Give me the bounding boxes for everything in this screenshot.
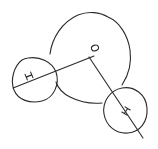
hydrogen-right-atom-circle: [104, 88, 147, 133]
oxygen-label-glyph: [91, 44, 100, 52]
hydrogen-left-label: [25, 72, 33, 80]
bond-line-right: [89, 57, 143, 138]
bond-line-left: [13, 56, 94, 88]
water-molecule-diagram: O H H: [0, 0, 158, 149]
